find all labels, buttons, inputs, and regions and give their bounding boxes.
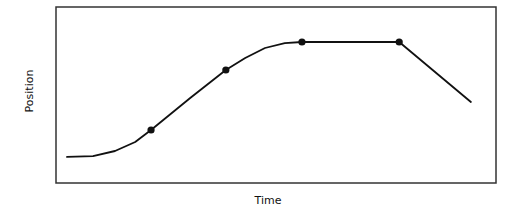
marker-layer: [147, 38, 402, 133]
position-time-chart: Time Position: [0, 0, 521, 208]
plot-frame: [56, 7, 496, 183]
data-point-marker-1: [147, 126, 154, 133]
data-point-marker-4: [396, 38, 403, 45]
series-line-position: [67, 42, 471, 157]
data-point-marker-2: [222, 66, 229, 73]
x-axis-label: Time: [254, 194, 282, 207]
series-layer: [67, 42, 471, 157]
y-axis-label: Position: [23, 70, 36, 113]
data-point-marker-3: [298, 38, 305, 45]
